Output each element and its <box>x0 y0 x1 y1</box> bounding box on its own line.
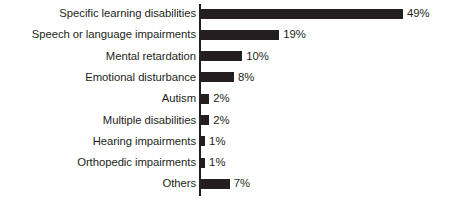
bar <box>201 72 234 82</box>
plot-area: Specific learning disabilities49%Speech … <box>0 0 456 203</box>
category-label: Multiple disabilities <box>0 114 196 127</box>
bar-value-label: 19% <box>283 28 306 41</box>
bar-container: 1% <box>201 152 225 173</box>
category-label: Orthopedic impairments <box>0 156 196 169</box>
bar-container: 7% <box>201 173 250 194</box>
bar <box>201 51 242 61</box>
category-label: Specific learning disabilities <box>0 7 196 20</box>
bar-container: 8% <box>201 67 254 88</box>
bar-container: 1% <box>201 131 225 152</box>
bar-container: 49% <box>201 3 430 24</box>
bar-chart: Specific learning disabilities49%Speech … <box>0 0 456 203</box>
bar <box>201 9 403 19</box>
category-label: Autism <box>0 92 196 105</box>
bar-row: Specific learning disabilities49% <box>0 3 456 24</box>
bar-row: Emotional disturbance8% <box>0 67 456 88</box>
bar-value-label: 1% <box>209 156 225 169</box>
category-label: Mental retardation <box>0 50 196 63</box>
bar-value-label: 7% <box>234 177 250 190</box>
category-label: Speech or language impairments <box>0 28 196 41</box>
bar <box>201 94 209 104</box>
category-label: Emotional disturbance <box>0 71 196 84</box>
bar-value-label: 49% <box>407 7 430 20</box>
bar-value-label: 10% <box>246 50 269 63</box>
category-label: Others <box>0 177 196 190</box>
bar-row: Mental retardation10% <box>0 46 456 67</box>
bar <box>201 115 209 125</box>
bar-container: 10% <box>201 46 269 67</box>
bar-row: Multiple disabilities2% <box>0 110 456 131</box>
bar-value-label: 1% <box>209 135 225 148</box>
bar-value-label: 2% <box>213 92 229 105</box>
bar-row: Orthopedic impairments1% <box>0 152 456 173</box>
bar-row: Speech or language impairments19% <box>0 24 456 45</box>
bar <box>201 30 279 40</box>
bar-value-label: 2% <box>213 114 229 127</box>
bar <box>201 179 230 189</box>
category-label: Hearing impairments <box>0 135 196 148</box>
bar-value-label: 8% <box>238 71 254 84</box>
bar-container: 2% <box>201 110 230 131</box>
bar <box>201 158 205 168</box>
bar-container: 2% <box>201 88 230 109</box>
bar <box>201 136 205 146</box>
bar-row: Others7% <box>0 173 456 194</box>
bar-row: Hearing impairments1% <box>0 131 456 152</box>
bar-row: Autism2% <box>0 88 456 109</box>
bar-container: 19% <box>201 24 306 45</box>
